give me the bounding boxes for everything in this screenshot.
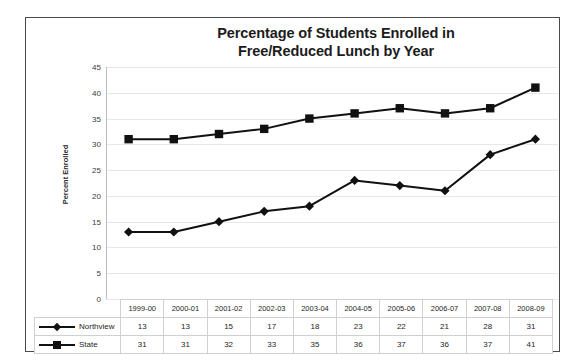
table-row: Northview13131517182322212831 [35, 318, 553, 336]
data-point [124, 135, 132, 143]
series-northview [124, 135, 540, 237]
y-axis-tick-label: 25 [92, 166, 101, 175]
legend-label: Northview [77, 322, 115, 331]
table-header-2004-05: 2004-05 [337, 300, 380, 318]
table-cell: 22 [380, 318, 423, 336]
table-cell: 23 [337, 318, 380, 336]
table-header-2008-09: 2008-09 [509, 300, 552, 318]
data-point [350, 176, 359, 185]
legend-item-state: State [35, 336, 121, 354]
table-header-2002-03: 2002-03 [250, 300, 293, 318]
series-plot [106, 67, 558, 299]
chart-title-line-2: Free/Reduced Lunch by Year [121, 42, 551, 60]
data-point [396, 104, 404, 112]
table-cell: 35 [293, 336, 336, 354]
table-cell: 31 [509, 318, 552, 336]
legend-item-northview: Northview [35, 318, 121, 336]
table-cell: 18 [293, 318, 336, 336]
table-cell: 31 [121, 336, 164, 354]
y-axis-tick-label: 15 [92, 217, 101, 226]
table-row: State31313233353637363741 [35, 336, 553, 354]
data-point [260, 125, 268, 133]
plot-area: 454035302520151050 [106, 67, 558, 299]
data-point [305, 114, 313, 122]
chart-frame: Percentage of Students Enrolled in Free/… [25, 17, 560, 352]
table-cell: 15 [207, 318, 250, 336]
data-point [215, 130, 223, 138]
table-cell: 28 [466, 318, 509, 336]
table-header-1999-00: 1999-00 [121, 300, 164, 318]
data-point [350, 109, 358, 117]
table-cell: 21 [423, 318, 466, 336]
series-state [124, 83, 539, 143]
chart-screenshot: Percentage of Students Enrolled in Free/… [0, 0, 576, 364]
table-cell: 32 [207, 336, 250, 354]
y-axis-tick-label: 5 [97, 269, 101, 278]
table-cell: 13 [121, 318, 164, 336]
data-point [531, 83, 539, 91]
data-point [486, 104, 494, 112]
plot-inner: 454035302520151050 [106, 67, 558, 299]
table-header-2007-08: 2007-08 [466, 300, 509, 318]
data-point [441, 109, 449, 117]
chart-title-line-1: Percentage of Students Enrolled in [121, 24, 551, 42]
table-header-2003-04: 2003-04 [293, 300, 336, 318]
table-cell: 37 [380, 336, 423, 354]
table-cell: 36 [337, 336, 380, 354]
data-point [214, 217, 223, 226]
series-line [129, 88, 536, 140]
table-header-row: 1999-002000-012001-022002-032003-042004-… [35, 300, 553, 318]
y-axis-tick-label: 40 [92, 88, 101, 97]
table-header-2005-06: 2005-06 [380, 300, 423, 318]
table-cell: 17 [250, 318, 293, 336]
table-cell: 41 [509, 336, 552, 354]
data-point [124, 227, 133, 236]
legend-square-marker-icon [37, 339, 77, 350]
table-cell: 31 [164, 336, 207, 354]
y-axis-tick-label: 10 [92, 243, 101, 252]
data-point [170, 135, 178, 143]
table-cell: 13 [164, 318, 207, 336]
data-point [169, 227, 178, 236]
y-axis-tick-label: 45 [92, 63, 101, 72]
data-point [305, 202, 314, 211]
y-axis-tick-label: 30 [92, 140, 101, 149]
data-point [260, 207, 269, 216]
table-corner-cell [35, 300, 121, 318]
series-line [129, 139, 536, 232]
table-header-2001-02: 2001-02 [207, 300, 250, 318]
table-cell: 37 [466, 336, 509, 354]
y-axis-tick-label: 35 [92, 114, 101, 123]
legend-label: State [77, 340, 98, 349]
data-point [531, 135, 540, 144]
y-axis-tick-label: 20 [92, 191, 101, 200]
table-body: Northview13131517182322212831State313132… [35, 318, 553, 354]
y-axis-title: Percent Enrolled [61, 115, 70, 235]
table-header-2000-01: 2000-01 [164, 300, 207, 318]
table-header-2006-07: 2006-07 [423, 300, 466, 318]
table-cell: 33 [250, 336, 293, 354]
data-point [395, 181, 404, 190]
legend-diamond-marker-icon [37, 321, 77, 332]
data-table: 1999-002000-012001-022002-032003-042004-… [34, 299, 553, 354]
table-cell: 36 [423, 336, 466, 354]
chart-title: Percentage of Students Enrolled in Free/… [121, 24, 551, 60]
